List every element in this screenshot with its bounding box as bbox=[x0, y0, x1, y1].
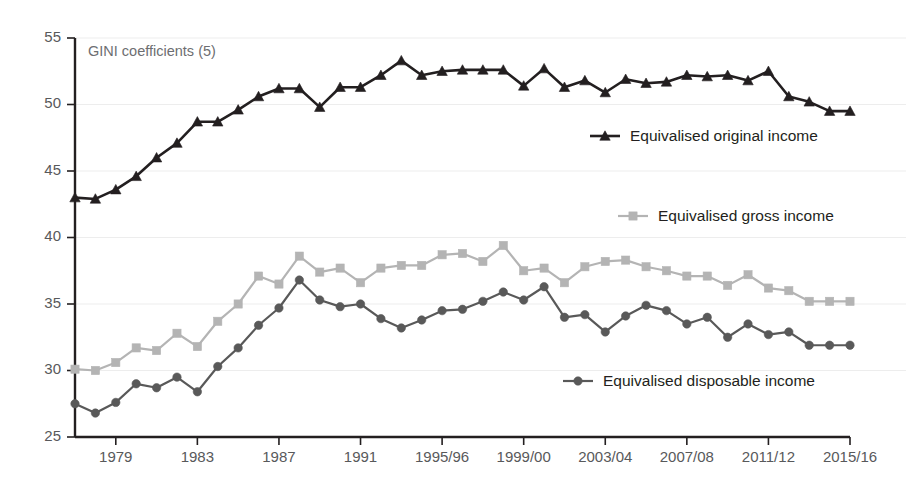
data-point-marker bbox=[377, 314, 385, 322]
data-point-marker bbox=[581, 310, 589, 318]
data-point-marker bbox=[173, 373, 181, 381]
y-axis-ticks: 25303540455055 bbox=[44, 28, 75, 444]
data-point-marker bbox=[418, 261, 426, 269]
data-point-marker bbox=[520, 267, 528, 275]
data-point-marker bbox=[785, 287, 793, 295]
data-point-marker bbox=[193, 388, 201, 396]
data-point-marker bbox=[91, 366, 99, 374]
x-tick-label: 1983 bbox=[181, 448, 214, 465]
legend-label: Equivalised gross income bbox=[658, 207, 834, 224]
data-point-marker bbox=[254, 321, 262, 329]
y-tick-label: 55 bbox=[44, 28, 61, 45]
x-axis-ticks: 19791983198719911995/961999/002003/04200… bbox=[99, 437, 877, 465]
data-point-marker bbox=[71, 365, 79, 373]
series-line bbox=[75, 280, 850, 413]
data-point-marker bbox=[316, 268, 324, 276]
data-point-marker bbox=[825, 341, 833, 349]
x-tick-label: 2007/08 bbox=[660, 448, 714, 465]
data-point-marker bbox=[846, 297, 854, 305]
data-point-marker bbox=[826, 297, 834, 305]
data-point-marker bbox=[275, 304, 283, 312]
y-tick-label: 30 bbox=[44, 360, 61, 377]
data-point-marker bbox=[642, 263, 650, 271]
data-point-marker bbox=[539, 63, 549, 72]
x-tick-label: 1991 bbox=[344, 448, 377, 465]
data-point-marker bbox=[764, 330, 772, 338]
data-point-marker bbox=[723, 333, 731, 341]
data-point-marker bbox=[336, 302, 344, 310]
data-point-marker bbox=[356, 300, 364, 308]
data-point-marker bbox=[580, 75, 590, 84]
data-point-marker bbox=[683, 320, 691, 328]
data-point-marker bbox=[418, 316, 426, 324]
data-point-marker bbox=[703, 272, 711, 280]
y-tick-label: 25 bbox=[44, 427, 61, 444]
data-point-marker bbox=[499, 288, 507, 296]
data-point-marker bbox=[356, 279, 364, 287]
x-tick-label: 1979 bbox=[99, 448, 132, 465]
y-tick-label: 40 bbox=[44, 227, 61, 244]
legend-item-1[interactable]: Equivalised original income bbox=[590, 127, 818, 144]
data-point-marker bbox=[132, 380, 140, 388]
data-point-marker bbox=[152, 346, 160, 354]
data-point-marker bbox=[377, 264, 385, 272]
x-tick-label: 2011/12 bbox=[742, 448, 795, 465]
legend-label: Equivalised disposable income bbox=[603, 372, 815, 389]
legend-marker-square-icon bbox=[629, 212, 637, 220]
data-point-marker bbox=[438, 306, 446, 314]
data-point-marker bbox=[785, 328, 793, 336]
data-point-marker bbox=[805, 297, 813, 305]
data-point-marker bbox=[316, 296, 324, 304]
data-point-marker bbox=[173, 329, 181, 337]
x-tick-label: 2015/16 bbox=[823, 448, 877, 465]
data-point-marker bbox=[642, 301, 650, 309]
data-point-marker bbox=[397, 261, 405, 269]
y-tick-label: 50 bbox=[44, 94, 61, 111]
chart-title: GINI coefficients (5) bbox=[88, 43, 216, 59]
data-point-marker bbox=[662, 306, 670, 314]
data-point-marker bbox=[295, 252, 303, 260]
x-tick-label: 1987 bbox=[262, 448, 295, 465]
y-tick-label: 35 bbox=[44, 294, 61, 311]
data-point-marker bbox=[581, 263, 589, 271]
data-point-marker bbox=[724, 281, 732, 289]
gini-coefficients-chart: 25303540455055 19791983198719911995/9619… bbox=[0, 0, 914, 484]
data-point-marker bbox=[234, 344, 242, 352]
chart-canvas: 25303540455055 19791983198719911995/9619… bbox=[0, 0, 914, 484]
data-point-marker bbox=[560, 279, 568, 287]
x-tick-label: 1999/00 bbox=[497, 448, 551, 465]
data-point-marker bbox=[132, 344, 140, 352]
data-point-marker bbox=[744, 320, 752, 328]
data-series-group bbox=[70, 55, 855, 417]
data-point-marker bbox=[295, 276, 303, 284]
data-point-marker bbox=[193, 342, 201, 350]
data-point-marker bbox=[499, 241, 507, 249]
data-point-marker bbox=[479, 257, 487, 265]
data-point-marker bbox=[214, 362, 222, 370]
data-point-marker bbox=[458, 305, 466, 313]
data-point-marker bbox=[397, 324, 405, 332]
data-point-marker bbox=[458, 249, 466, 257]
data-point-marker bbox=[622, 256, 630, 264]
data-point-marker bbox=[540, 264, 548, 272]
data-point-marker bbox=[275, 280, 283, 288]
data-point-marker bbox=[91, 409, 99, 417]
data-point-marker bbox=[764, 284, 772, 292]
data-point-marker bbox=[683, 272, 691, 280]
data-point-marker bbox=[71, 400, 79, 408]
data-point-marker bbox=[112, 398, 120, 406]
data-point-marker bbox=[763, 66, 773, 75]
data-point-marker bbox=[601, 328, 609, 336]
data-point-marker bbox=[214, 317, 222, 325]
data-point-marker bbox=[805, 341, 813, 349]
legend-label: Equivalised original income bbox=[630, 127, 818, 144]
data-point-marker bbox=[560, 313, 568, 321]
data-point-marker bbox=[152, 384, 160, 392]
data-point-marker bbox=[519, 296, 527, 304]
data-point-marker bbox=[234, 300, 242, 308]
data-point-marker bbox=[336, 264, 344, 272]
legend-item-3[interactable]: Equivalised disposable income bbox=[563, 372, 815, 389]
data-point-marker bbox=[744, 271, 752, 279]
legend-item-2[interactable]: Equivalised gross income bbox=[618, 207, 834, 224]
data-point-marker bbox=[438, 251, 446, 259]
